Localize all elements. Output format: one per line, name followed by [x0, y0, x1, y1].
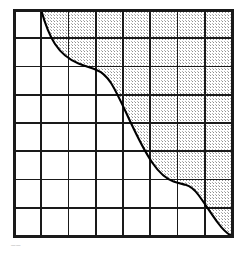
figure-root: –– [0, 0, 247, 253]
shaded-region-plot [0, 0, 247, 253]
caption-fragment: –– [11, 240, 21, 249]
